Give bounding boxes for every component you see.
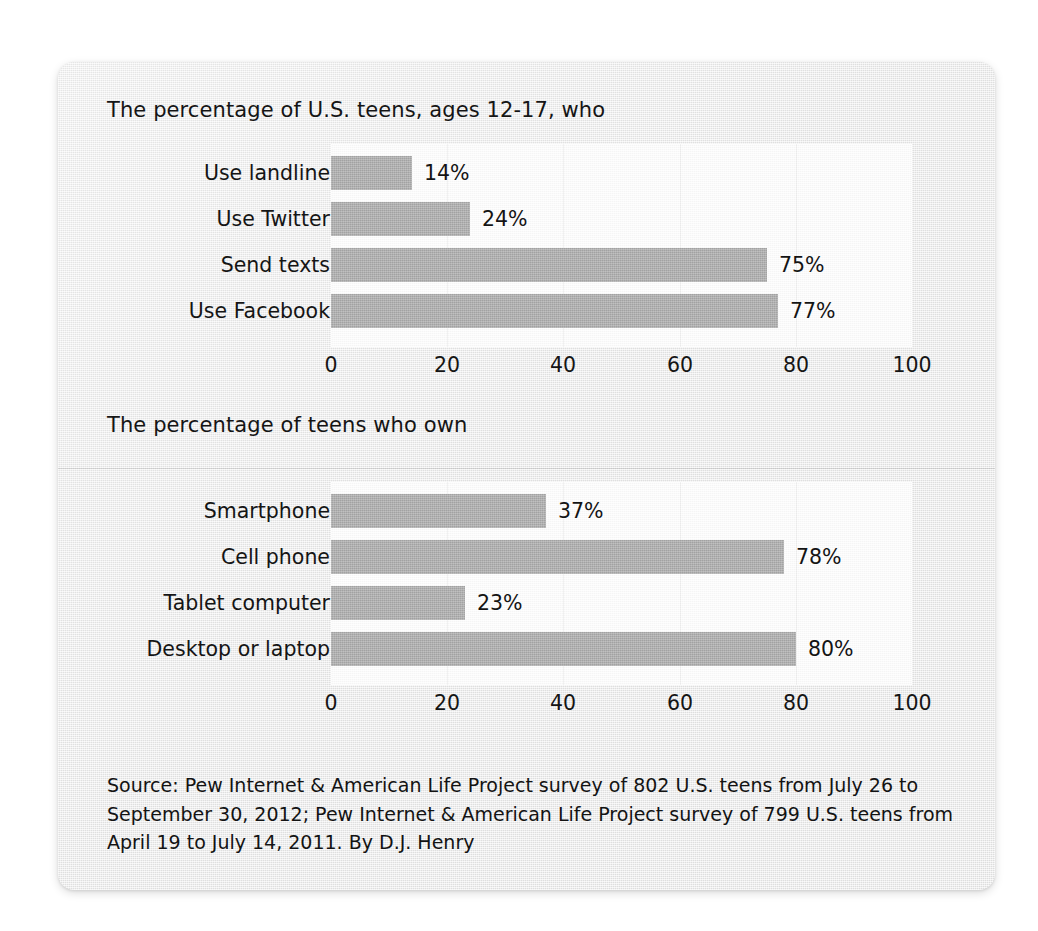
- chart-2-bar-value: 78%: [796, 540, 842, 574]
- chart-2-title: The percentage of teens who own: [107, 413, 467, 437]
- chart-2-xtick: 60: [667, 688, 693, 718]
- chart-2-xtick: 20: [434, 688, 460, 718]
- chart-1-row-0: Use landline 14%: [58, 156, 995, 190]
- chart-1-bar: [331, 156, 412, 190]
- chart-2-xtick: 100: [892, 688, 931, 718]
- chart-1-bar: [331, 294, 778, 328]
- chart-1-category-label: Send texts: [70, 248, 330, 282]
- chart-1-bar-value: 75%: [779, 248, 825, 282]
- chart-1-category-label: Use landline: [70, 156, 330, 190]
- chart-2-xtick: 0: [324, 688, 337, 718]
- chart-2: Smartphone 37% Cell phone 78% Tablet com…: [58, 482, 995, 712]
- chart-2-bar-value: 23%: [477, 586, 523, 620]
- chart-2-bar-track: 78%: [331, 540, 912, 574]
- chart-2-row-1: Cell phone 78%: [58, 540, 995, 574]
- chart-1-bar-track: 14%: [331, 156, 912, 190]
- chart-1-xtick: 100: [892, 350, 931, 380]
- section-divider: [58, 468, 995, 469]
- chart-2-bar-value: 80%: [808, 632, 854, 666]
- chart-1-xtick: 20: [434, 350, 460, 380]
- chart-1-bar-track: 24%: [331, 202, 912, 236]
- chart-1-bar-value: 24%: [482, 202, 528, 236]
- chart-2-bar: [331, 540, 784, 574]
- chart-1-row-2: Send texts 75%: [58, 248, 995, 282]
- chart-1-bar: [331, 248, 767, 282]
- chart-2-row-0: Smartphone 37%: [58, 494, 995, 528]
- chart-1-bar-value: 14%: [424, 156, 470, 190]
- chart-1-bar-track: 75%: [331, 248, 912, 282]
- chart-1-bar-value: 77%: [790, 294, 836, 328]
- chart-1-xtick: 80: [783, 350, 809, 380]
- chart-2-bar: [331, 632, 796, 666]
- chart-2-bar: [331, 586, 465, 620]
- chart-2-xtick: 40: [550, 688, 576, 718]
- chart-2-xtick: 80: [783, 688, 809, 718]
- chart-2-bar-track: 23%: [331, 586, 912, 620]
- chart-1: Use landline 14% Use Twitter 24% Send te…: [58, 144, 995, 374]
- chart-1-xtick: 60: [667, 350, 693, 380]
- chart-2-bar-track: 80%: [331, 632, 912, 666]
- chart-1-xtick: 0: [324, 350, 337, 380]
- chart-2-category-label: Desktop or laptop: [70, 632, 330, 666]
- chart-2-x-axis: 0 20 40 60 80 100: [331, 688, 912, 718]
- chart-1-xtick: 40: [550, 350, 576, 380]
- chart-2-bar-value: 37%: [558, 494, 604, 528]
- chart-2-category-label: Tablet computer: [70, 586, 330, 620]
- chart-1-x-axis: 0 20 40 60 80 100: [331, 350, 912, 380]
- chart-1-bar: [331, 202, 470, 236]
- chart-1-row-3: Use Facebook 77%: [58, 294, 995, 328]
- chart-2-row-2: Tablet computer 23%: [58, 586, 995, 620]
- chart-1-bar-track: 77%: [331, 294, 912, 328]
- chart-1-category-label: Use Twitter: [70, 202, 330, 236]
- chart-1-title: The percentage of U.S. teens, ages 12-17…: [107, 98, 605, 122]
- infographic-card: The percentage of U.S. teens, ages 12-17…: [58, 62, 995, 890]
- chart-2-bar: [331, 494, 546, 528]
- chart-2-category-label: Cell phone: [70, 540, 330, 574]
- chart-1-row-1: Use Twitter 24%: [58, 202, 995, 236]
- chart-2-category-label: Smartphone: [70, 494, 330, 528]
- chart-2-row-3: Desktop or laptop 80%: [58, 632, 995, 666]
- chart-2-bar-track: 37%: [331, 494, 912, 528]
- chart-1-category-label: Use Facebook: [70, 294, 330, 328]
- source-note: Source: Pew Internet & American Life Pro…: [107, 771, 967, 857]
